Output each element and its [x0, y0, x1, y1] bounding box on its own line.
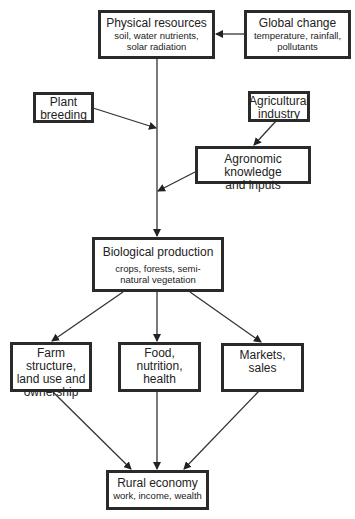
node-title: Rural economy [117, 477, 198, 490]
node-line: breeding [40, 109, 87, 122]
node-subtitle: natural vegetation [120, 274, 196, 285]
node-agricultural-industry: Agricultural industry [248, 91, 310, 122]
node-subtitle: pollutants [277, 41, 318, 52]
arrow-agri-to-agronomic [254, 121, 276, 145]
node-farm-structure: Farm structure, land use and ownership [10, 342, 92, 392]
arrow-markets-to-rural [184, 391, 259, 469]
node-title: Biological production [103, 246, 214, 259]
arrow-plant-to-stem [93, 108, 156, 128]
node-subtitle: work, income, wealth [113, 490, 202, 501]
node-subtitle: soil, water nutrients, [114, 30, 198, 41]
node-subtitle: crops, forests, semi- [115, 263, 201, 274]
node-line: industry [258, 108, 300, 121]
node-physical-resources: Physical resources soil, water nutrients… [98, 10, 215, 59]
arrow-farm-to-rural [52, 391, 131, 469]
node-line: Markets, sales [224, 349, 301, 375]
node-line: Agronomic knowledge [198, 153, 308, 179]
node-food-nutrition: Food, nutrition, health [118, 342, 201, 392]
node-biological-production: Biological production crops, forests, se… [92, 237, 224, 292]
node-agronomic-knowledge: Agronomic knowledge and inputs [195, 146, 311, 184]
node-subtitle: solar radiation [127, 41, 187, 52]
node-line: Farm structure, [13, 347, 89, 373]
node-title: Physical resources [106, 17, 207, 30]
node-line: health [143, 373, 176, 386]
arrow-bio-to-farm [52, 292, 123, 341]
node-markets-sales: Markets, sales [221, 343, 304, 392]
node-plant-breeding: Plant breeding [33, 92, 94, 123]
node-rural-economy: Rural economy work, income, wealth [106, 470, 209, 510]
node-line: and inputs [225, 179, 280, 192]
arrow-agronomic-to-stem [158, 172, 195, 191]
arrow-bio-to-markets [190, 292, 261, 342]
node-line: Food, nutrition, [121, 347, 198, 373]
node-subtitle: temperature, rainfall, [254, 30, 341, 41]
node-title: Global change [259, 17, 336, 30]
node-line: ownership [24, 386, 79, 399]
node-global-change: Global change temperature, rainfall, pol… [244, 10, 351, 59]
